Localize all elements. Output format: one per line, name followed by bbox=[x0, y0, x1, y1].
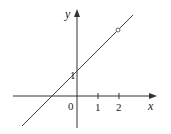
graph: y x 0 1 2 1 bbox=[0, 0, 171, 134]
x-axis-label: x bbox=[147, 99, 154, 113]
y-axis-label: y bbox=[64, 7, 71, 21]
origin-label: 0 bbox=[68, 100, 74, 112]
x-tick-1-label: 1 bbox=[95, 101, 101, 113]
x-tick-2-label: 2 bbox=[116, 101, 122, 113]
y-axis-arrow-icon bbox=[74, 9, 80, 17]
open-circle-hole bbox=[116, 28, 120, 32]
y-tick-1-label: 1 bbox=[70, 69, 76, 81]
